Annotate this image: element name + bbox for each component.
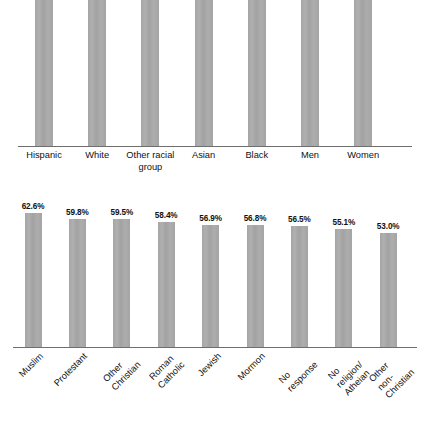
chart-panel-religion: 62.6%Muslim59.8%Protestant59.5%Other Chr… <box>0 190 429 437</box>
bar <box>380 233 397 347</box>
x-tick-label: No religion/ Atheian <box>326 351 373 398</box>
bar-value-label: 55.1% <box>321 218 367 227</box>
chart-panel-demographics: 58.2%Hispanic58.0%White57.0%Other racial… <box>0 0 429 182</box>
bar <box>291 226 308 347</box>
x-tick-label: Roman Catholic <box>147 351 187 391</box>
bar <box>69 219 86 347</box>
bar <box>335 229 352 347</box>
bar <box>88 0 106 146</box>
bar <box>141 0 159 146</box>
bar <box>158 222 175 347</box>
bar <box>113 219 130 347</box>
x-tick-label: Protestant <box>52 351 90 389</box>
x-axis-line-chart-2 <box>13 347 417 348</box>
bar-value-label: 59.8% <box>54 208 100 217</box>
bar-value-label: 56.9% <box>188 214 234 223</box>
bar <box>25 213 42 347</box>
x-tick-label: Other Christian <box>101 351 143 393</box>
x-axis-line-chart-1 <box>18 146 412 147</box>
x-tick-label: Women <box>331 150 395 162</box>
bar-value-label: 53.0% <box>365 222 411 231</box>
bar <box>35 0 53 146</box>
bar-value-label: 56.8% <box>232 214 278 223</box>
x-tick-label: Mormon <box>236 351 268 383</box>
bar-value-label: 62.6% <box>10 202 56 211</box>
bar <box>301 0 319 146</box>
x-tick-label: No response <box>277 351 320 394</box>
bar <box>247 225 264 347</box>
x-tick-label: Muslim <box>17 351 46 380</box>
bar <box>195 0 213 146</box>
two-bar-charts-figure: 58.2%Hispanic58.0%White57.0%Other racial… <box>0 0 429 437</box>
plot-area-chart-2: 62.6%Muslim59.8%Protestant59.5%Other Chr… <box>0 190 429 437</box>
x-tick-label: Jewish <box>195 351 223 379</box>
x-tick-label: Other non-Christian <box>367 351 417 401</box>
bar <box>202 225 219 347</box>
bar <box>354 0 372 146</box>
plot-area-chart-1: 58.2%Hispanic58.0%White57.0%Other racial… <box>0 0 429 182</box>
bar-value-label: 58.4% <box>143 211 189 220</box>
bar-value-label: 56.5% <box>276 215 322 224</box>
bar <box>248 0 266 146</box>
bar-value-label: 59.5% <box>99 208 145 217</box>
